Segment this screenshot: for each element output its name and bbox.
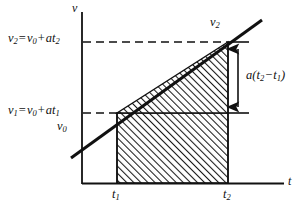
equals-sign-2: = (18, 103, 27, 117)
t2-tick-label: t2 (223, 188, 231, 201)
t-axis-label: t (288, 175, 291, 187)
v-axis-label: v (72, 2, 77, 14)
accel-prefix: a(t (246, 68, 260, 82)
minus-sign: − (264, 68, 273, 82)
v2-term-sub: 2 (55, 36, 59, 46)
velocity-time-figure: v t v2=v0+at2 v1=v0+at1 v0 v2 t1 t2 a(t2… (0, 0, 306, 208)
t2-sub: 2 (226, 192, 230, 202)
v2-point-label: v2 (210, 16, 220, 29)
shaded-triangle-region (117, 42, 228, 113)
t1-sub: 1 (115, 192, 119, 202)
t1-tick-label: t1 (112, 188, 120, 201)
acceleration-span-label: a(t2−t1) (246, 69, 285, 82)
v0-intercept-label: v0 (57, 120, 67, 133)
accel-suffix: ) (281, 68, 285, 82)
v2-point-sub: 2 (216, 20, 220, 30)
shaded-rectangle-region (117, 113, 228, 183)
equals-sign-1: = (18, 31, 27, 45)
plus-sign-2: + (37, 103, 46, 117)
plus-sign-1: + (37, 31, 46, 45)
v1-term-sub: 1 (55, 108, 59, 118)
v2-equation-label: v2=v0+at2 (8, 32, 60, 45)
v0-sub: 0 (63, 124, 67, 134)
v1-equation-label: v1=v0+at1 (8, 104, 60, 117)
